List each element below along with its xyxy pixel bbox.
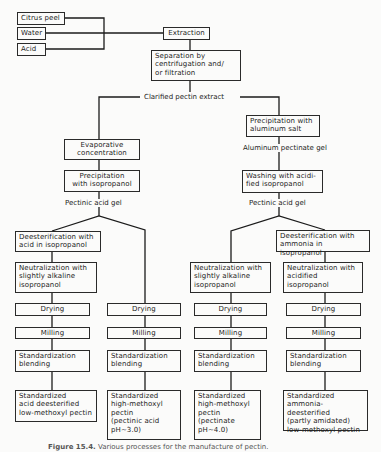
col2-product: Standardized high-methoxyl pectin (pecti… xyxy=(107,390,181,440)
flowchart-canvas: Citrus peel Water Acid Extraction Separa… xyxy=(0,0,381,452)
input-water: Water xyxy=(17,27,46,40)
col2-milling: Milling xyxy=(107,327,181,339)
intermediate-pectinic-acid-gel-left: Pectinic acid gel xyxy=(63,199,124,207)
col1-product: Standardized acid deesterified low-metho… xyxy=(15,390,97,422)
step-precipitation-isopropanol: Precipitation with isopropanol xyxy=(64,170,140,192)
intermediate-aluminum-pectinate-gel: Aluminum pectinate gel xyxy=(241,144,329,152)
figure-caption-text: Various processes for the manufacture of… xyxy=(98,443,269,451)
figure-caption: Figure 15.4. Various processes for the m… xyxy=(48,443,269,451)
col3-standardization: Standardization blending xyxy=(194,350,267,372)
col4-product: Standardized ammonia-deesterified (partl… xyxy=(283,390,368,431)
col2-standardization: Standardization blending xyxy=(107,350,181,372)
input-citrus-peel: Citrus peel xyxy=(17,12,65,25)
col1-deesterification-acid: Deesterification with acid in isopropano… xyxy=(15,231,101,252)
col1-drying: Drying xyxy=(15,303,90,316)
col4-neutralization: Neutralization with acidified isopropano… xyxy=(283,262,363,293)
step-precipitation-aluminum: Precipitation with aluminum salt xyxy=(246,115,320,137)
figure-number: Figure 15.4. xyxy=(48,443,96,451)
input-acid: Acid xyxy=(17,43,46,56)
step-separation: Separation by centrifugation and/ or fil… xyxy=(151,50,241,81)
step-evaporative-concentration: Evaporative concentration xyxy=(64,139,140,160)
col1-milling: Milling xyxy=(15,327,90,339)
col4-drying: Drying xyxy=(286,303,361,316)
col1-standardization: Standardization blending xyxy=(15,350,90,372)
col3-drying: Drying xyxy=(194,303,267,316)
col4-deesterification-ammonia: Deesterification with ammonia in isoprop… xyxy=(276,230,370,252)
col3-neutralization: Neutralization with slightly alkaline is… xyxy=(190,262,271,293)
step-washing-acidified: Washing with acidi- fied isopropanol xyxy=(242,170,323,193)
step-extraction: Extraction xyxy=(163,27,210,40)
col4-milling: Milling xyxy=(286,327,361,339)
col3-product: Standardized high-methoxyl pectin (pecti… xyxy=(194,390,261,440)
col3-milling: Milling xyxy=(194,327,267,339)
col4-standardization: Standardization blending xyxy=(286,350,361,372)
col1-neutralization: Neutralization with slightly alkaline is… xyxy=(15,262,97,293)
intermediate-clarified-extract: Clarified pectin extract xyxy=(142,93,226,101)
intermediate-pectinic-acid-gel-right: Pectinic acid gel xyxy=(247,199,308,207)
col2-drying: Drying xyxy=(107,303,181,316)
